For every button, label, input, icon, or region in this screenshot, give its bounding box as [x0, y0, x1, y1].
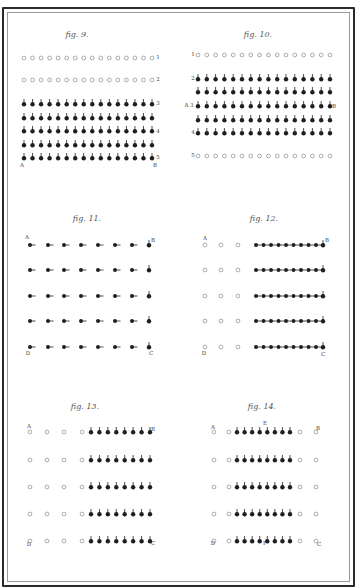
filled-dot-stem-up-mark	[114, 482, 118, 489]
filled-dot-stem-up-mark	[319, 101, 323, 109]
open-circle-mark	[90, 56, 94, 60]
filled-dot-stem-right-mark	[28, 319, 36, 323]
open-circle-mark	[314, 539, 318, 543]
open-circle-mark	[236, 294, 240, 298]
filled-dot-stem-up-mark	[73, 99, 77, 107]
open-circle-mark	[223, 53, 227, 57]
open-circle-mark	[223, 154, 227, 158]
open-circle-mark	[62, 430, 66, 434]
fig13-group	[28, 427, 152, 544]
filled-dot-stem-up-mark	[222, 115, 226, 123]
open-circle-mark	[227, 539, 231, 543]
filled-dot-stem-up-mark	[288, 482, 292, 489]
filled-dot-stem-up-mark	[196, 101, 200, 109]
open-circle-mark	[80, 512, 84, 516]
open-circle-mark	[227, 430, 231, 434]
filled-dot-stem-right-mark	[28, 243, 36, 247]
filled-dot-stem-up-mark	[321, 342, 325, 349]
filled-dot-stem-up-mark	[99, 113, 103, 121]
filled-dot-stem-up-mark	[240, 115, 244, 123]
open-circle-mark	[48, 78, 52, 82]
filled-dot-stem-up-mark	[275, 74, 279, 82]
open-circle-mark	[80, 430, 84, 434]
filled-dot-stem-up-mark	[242, 536, 246, 544]
filled-dot-stem-up-mark	[249, 115, 253, 123]
filled-dot-stem-up-mark	[148, 482, 152, 489]
filled-dot-stem-up-mark	[139, 455, 143, 462]
filled-dot-stem-up-mark	[273, 482, 277, 489]
filled-dot-stem-right-mark	[96, 345, 104, 349]
filled-dot-stem-up-mark	[328, 74, 332, 82]
filled-dot-stem-up-mark	[107, 153, 111, 161]
filled-dot-stem-right-mark	[292, 319, 300, 323]
open-circle-mark	[328, 154, 332, 158]
filled-dot-stem-up-mark	[131, 482, 135, 489]
filled-dot-stem-up-mark	[133, 113, 137, 121]
filled-dot-stem-up-mark	[235, 509, 239, 517]
filled-dot-stem-up-mark	[273, 427, 277, 434]
filled-dot-stem-up-mark	[56, 153, 60, 161]
open-circle-mark	[314, 485, 318, 489]
filled-dot-stem-up-mark	[310, 115, 314, 123]
open-circle-mark	[45, 485, 49, 489]
filled-dot-stem-up-mark	[265, 509, 269, 517]
filled-dot-stem-up-mark	[139, 536, 143, 544]
filled-dot-stem-up-mark	[280, 509, 284, 517]
open-circle-mark	[80, 485, 84, 489]
filled-dot-stem-up-mark	[275, 101, 279, 109]
filled-dot-stem-up-mark	[97, 455, 101, 462]
filled-dot-stem-up-mark	[288, 509, 292, 517]
filled-dot-stem-up-mark	[47, 140, 51, 148]
filled-dot-stem-right-mark	[113, 319, 121, 323]
filled-dot-stem-up-mark	[64, 113, 68, 121]
filled-dot-stem-up-mark	[47, 113, 51, 121]
filled-dot-stem-right-mark	[307, 319, 315, 323]
filled-dot-stem-up-mark	[265, 482, 269, 489]
filled-dot-stem-right-mark	[269, 294, 277, 298]
open-circle-mark	[116, 78, 120, 82]
filled-dot-stem-right-mark	[130, 268, 138, 272]
open-circle-mark	[249, 53, 253, 57]
filled-dot-stem-up-mark	[213, 115, 217, 123]
filled-dot-stem-up-mark	[56, 113, 60, 121]
filled-dot-stem-up-mark	[250, 455, 254, 462]
filled-dot-stem-up-mark	[141, 99, 145, 107]
open-circle-mark	[125, 56, 129, 60]
filled-dot-stem-up-mark	[106, 455, 110, 462]
filled-dot-stem-right-mark	[62, 294, 70, 298]
filled-dot-stem-up-mark	[196, 128, 200, 136]
open-circle-mark	[28, 485, 32, 489]
filled-dot-stem-right-mark	[254, 345, 262, 349]
open-circle-mark	[212, 430, 216, 434]
open-circle-mark	[236, 243, 240, 247]
filled-dot-stem-up-mark	[107, 140, 111, 148]
open-circle-mark	[205, 154, 209, 158]
filled-dot-stem-up-mark	[222, 74, 226, 82]
open-circle-mark	[219, 345, 223, 349]
filled-dot-stem-right-mark	[62, 319, 70, 323]
open-circle-mark	[107, 78, 111, 82]
open-circle-mark	[62, 485, 66, 489]
open-circle-mark	[62, 539, 66, 543]
filled-dot-stem-up-mark	[266, 74, 270, 82]
filled-dot-stem-up-mark	[123, 509, 127, 517]
filled-dot-stem-up-mark	[321, 265, 325, 272]
open-circle-mark	[28, 512, 32, 516]
open-circle-mark	[65, 78, 69, 82]
filled-dot-stem-up-mark	[319, 87, 323, 95]
filled-dot-stem-right-mark	[299, 268, 307, 272]
filled-dot-stem-up-mark	[321, 316, 325, 323]
open-circle-mark	[45, 539, 49, 543]
open-circle-mark	[203, 294, 207, 298]
filled-dot-stem-up-mark	[150, 99, 154, 107]
filled-dot-stem-right-mark	[96, 243, 104, 247]
filled-dot-stem-up-mark	[39, 113, 43, 121]
filled-dot-stem-up-mark	[258, 482, 262, 489]
filled-dot-stem-right-mark	[96, 294, 104, 298]
open-circle-mark	[150, 78, 154, 82]
open-circle-mark	[203, 243, 207, 247]
open-circle-mark	[219, 268, 223, 272]
filled-dot-stem-up-mark	[213, 74, 217, 82]
filled-dot-stem-up-mark	[64, 99, 68, 107]
filled-dot-stem-up-mark	[284, 128, 288, 136]
